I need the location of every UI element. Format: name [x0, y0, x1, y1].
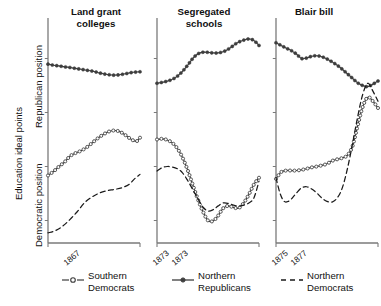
- legend-label-northern-democrats: Northern Democrats: [307, 270, 353, 293]
- legend-label-southern-democrats: Southern Democrats: [88, 270, 134, 293]
- panel-2: [154, 18, 261, 247]
- series-line-southern-democrats: [157, 139, 259, 222]
- panel-1: [45, 18, 142, 247]
- series-line-southern-democrats: [276, 97, 378, 179]
- legend: Southern Democrats Northern Republicans …: [0, 272, 381, 306]
- legend-label-northern-republicans: Northern Republicans: [198, 270, 251, 293]
- plot-canvas: [0, 0, 381, 306]
- series-line-northern-democrats: [276, 83, 378, 202]
- panel-3: [273, 18, 380, 247]
- legend-marker-southern-democrats: [62, 276, 84, 284]
- series-line-northern-democrats: [48, 174, 140, 233]
- legend-marker-northern-republicans: [172, 276, 194, 284]
- series-line-southern-democrats: [48, 131, 140, 176]
- series-line-northern-republicans: [157, 39, 259, 83]
- legend-marker-northern-democrats: [281, 276, 303, 284]
- figure-root: Education ideal points Republican positi…: [0, 0, 381, 306]
